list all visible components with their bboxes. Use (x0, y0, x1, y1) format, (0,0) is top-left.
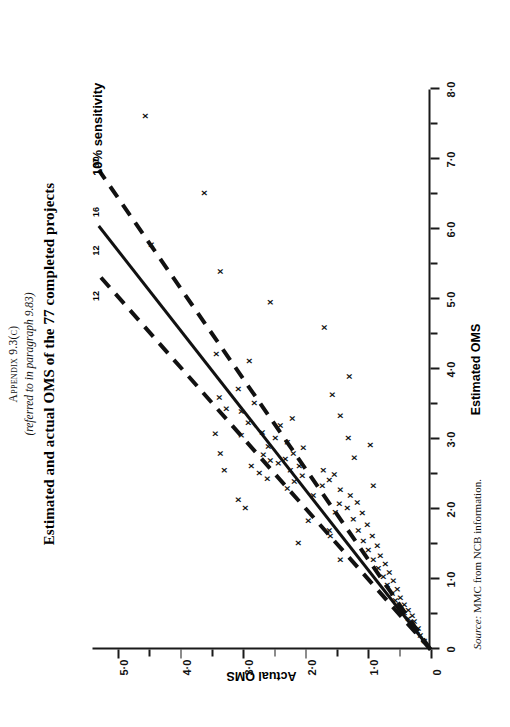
source-label: Source: (470, 615, 482, 649)
x-minor-tick (430, 262, 437, 264)
rotated-figure-canvas: Appendix 9.3(c) (referred to in paragrap… (0, 0, 510, 727)
figure-page: Appendix 9.3(c) (referred to in paragrap… (0, 0, 510, 727)
y-tick-label: 0 (430, 669, 442, 675)
x-tick-label: 4·0 (444, 361, 456, 377)
x-tick-label: 5·0 (444, 291, 456, 307)
central-estimate (98, 226, 430, 650)
x-tick (430, 157, 439, 159)
y-tick-label: 2·0 (305, 659, 317, 675)
x-tick-label: 0 (444, 646, 456, 652)
y-minor-tick (399, 649, 401, 656)
y-tick-label: 4·0 (180, 659, 192, 675)
x-tick (430, 367, 439, 369)
sensitivity-annotation: 10% sensitivity (89, 82, 104, 175)
page-title: Estimated and actual OMS of the 77 compl… (40, 0, 57, 727)
line-end-label: 12 (90, 290, 100, 300)
x-tick (430, 227, 439, 229)
x-tick (430, 577, 439, 579)
line-end-label: 12 (90, 245, 100, 255)
trend-line-layer (92, 89, 430, 649)
x-tick-label: 2·0 (444, 501, 456, 517)
y-tick (430, 649, 432, 658)
upper-10pct-sensitivity (98, 275, 430, 650)
y-tick (305, 649, 307, 658)
y-tick (367, 649, 369, 658)
x-axis-title: Estimated OMS (468, 323, 482, 415)
x-minor-tick (430, 612, 437, 614)
y-tick (180, 649, 182, 658)
x-tick (430, 437, 439, 439)
x-tick-label: 7·0 (444, 151, 456, 167)
x-minor-tick (430, 192, 437, 194)
y-minor-tick (336, 649, 338, 656)
x-tick-label: 6·0 (444, 221, 456, 237)
lower-10pct-sensitivity (98, 170, 430, 650)
source-text: MMC from NCB information. (470, 479, 482, 613)
y-minor-tick (148, 649, 150, 656)
x-minor-tick (430, 332, 437, 334)
x-minor-tick (430, 122, 437, 124)
y-tick (242, 649, 244, 658)
referred-to-label: (referred to in paragraph 9.83) (22, 0, 34, 727)
x-tick-label: 3·0 (444, 431, 456, 447)
x-tick-label: 8·0 (444, 81, 456, 97)
scatter-plot: 01·02·03·04·05·06·07·08·0 01·02·03·04·05… (92, 89, 430, 649)
line-end-label: 16 (90, 206, 100, 216)
x-minor-tick (430, 542, 437, 544)
y-minor-tick (211, 649, 213, 656)
x-minor-tick (430, 472, 437, 474)
y-axis-title: Actual OMS (226, 669, 296, 683)
appendix-label: Appendix 9.3(c) (6, 0, 18, 727)
x-minor-tick (430, 402, 437, 404)
y-tick-label: 5·0 (117, 659, 129, 675)
x-tick (430, 507, 439, 509)
y-tick (117, 649, 119, 658)
y-minor-tick (274, 649, 276, 656)
y-tick-label: 1·0 (367, 659, 379, 675)
x-tick (430, 297, 439, 299)
x-tick-label: 1·0 (444, 571, 456, 587)
x-tick (430, 87, 439, 89)
source-note: Source: MMC from NCB information. (470, 479, 482, 649)
